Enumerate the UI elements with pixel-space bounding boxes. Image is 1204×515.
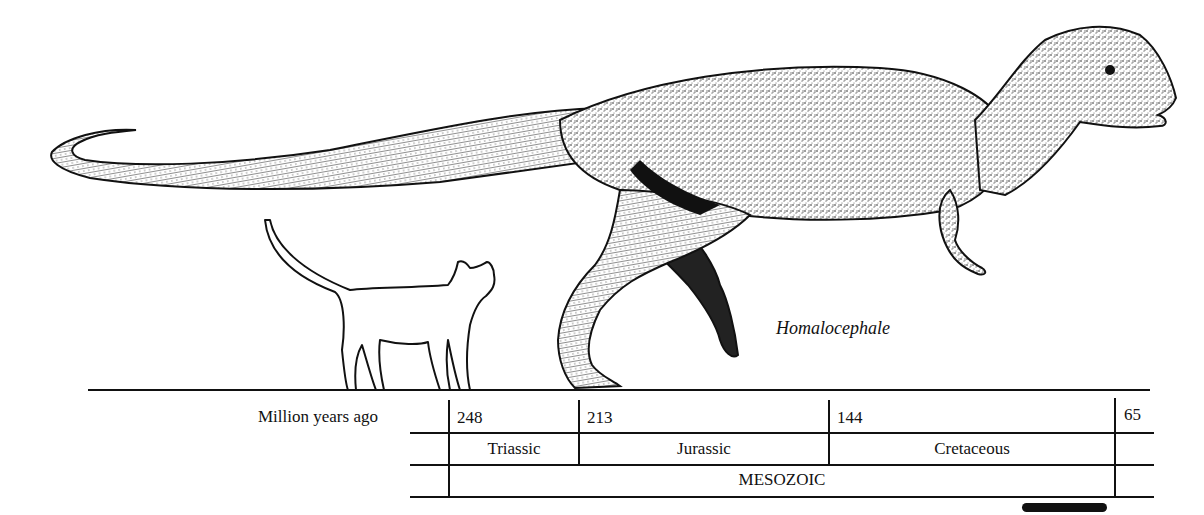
boundary-65 bbox=[1114, 398, 1116, 498]
timeline-rule-3 bbox=[410, 496, 1154, 498]
dinosaur-neck bbox=[975, 27, 1176, 195]
boundary-label: 144 bbox=[837, 408, 863, 428]
period-jurassic: Jurassic bbox=[580, 439, 828, 459]
species-label: Homalocephale bbox=[776, 318, 890, 339]
period-cretaceous: Cretaceous bbox=[830, 439, 1114, 459]
illustration bbox=[0, 0, 1204, 515]
scale-bar bbox=[1022, 503, 1107, 512]
dinosaur-drawing bbox=[51, 27, 1176, 388]
timeline-rule-2 bbox=[410, 464, 1154, 466]
ground-line bbox=[88, 389, 1150, 391]
boundary-label: 248 bbox=[457, 408, 483, 428]
axis-label: Million years ago bbox=[258, 407, 378, 427]
boundary-label: 213 bbox=[587, 408, 613, 428]
boundary-label: 65 bbox=[1124, 405, 1141, 425]
dinosaur-eye bbox=[1105, 65, 1115, 75]
cat-drawing bbox=[265, 220, 495, 390]
dinosaur-tail bbox=[51, 108, 600, 189]
timeline-rule-1 bbox=[410, 432, 1154, 434]
era-mesozoic: MESOZOIC bbox=[450, 470, 1114, 490]
period-triassic: Triassic bbox=[450, 439, 578, 459]
cat-body bbox=[265, 220, 495, 390]
